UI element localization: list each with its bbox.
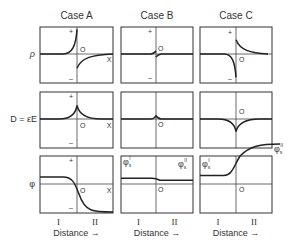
curve-rho-b-right bbox=[156, 54, 193, 57]
plus-mark: + bbox=[69, 28, 73, 35]
row-label-rho: ρ bbox=[29, 49, 35, 59]
curve-phi-c bbox=[200, 144, 280, 176]
plus-mark: + bbox=[148, 28, 152, 35]
curve-d-b bbox=[121, 116, 193, 119]
column-title-b: Case B bbox=[141, 10, 174, 21]
distance-axis-label: Distance → bbox=[213, 228, 260, 238]
plus-mark: + bbox=[228, 29, 232, 36]
x-label: X bbox=[107, 122, 112, 129]
x-label: X bbox=[107, 56, 112, 63]
region-two-label: II bbox=[172, 217, 178, 227]
panel-frame-a-phi bbox=[40, 156, 113, 213]
curve-rho-c-right bbox=[236, 40, 268, 54]
origin-label: O bbox=[80, 122, 86, 129]
origin-label: O bbox=[158, 186, 164, 193]
minus-mark: – bbox=[69, 204, 73, 211]
minus-mark: – bbox=[69, 75, 73, 82]
x-label: X bbox=[107, 187, 112, 194]
curve-rho-b-left bbox=[121, 51, 156, 54]
curve-rho-c-left bbox=[200, 54, 236, 77]
region-one-label: I bbox=[57, 217, 60, 227]
plus-mark: + bbox=[69, 93, 73, 100]
minus-mark: – bbox=[148, 74, 152, 81]
region-two-label: II bbox=[251, 217, 257, 227]
panel-frame-a-d bbox=[40, 92, 113, 148]
origin-label: O bbox=[80, 187, 86, 194]
origin-label: O bbox=[158, 121, 164, 128]
minus-mark: – bbox=[228, 75, 232, 82]
row-label-d: D = εE bbox=[10, 114, 37, 124]
curve-phi-b bbox=[121, 178, 193, 180]
region-two-label: II bbox=[92, 217, 98, 227]
column-title-a: Case A bbox=[60, 10, 93, 21]
double-layer-figure: Case ACase BCase CρD = εEφ+–OX+–OX+–OX+–… bbox=[0, 0, 288, 246]
origin-label: O bbox=[239, 186, 245, 193]
column-title-c: Case C bbox=[219, 10, 252, 21]
phi-s-two-label: φsII bbox=[274, 142, 283, 155]
minus-mark: – bbox=[69, 139, 73, 146]
phi-s-two-label: φsII bbox=[178, 157, 187, 170]
row-label-phi: φ bbox=[29, 179, 35, 189]
region-one-label: I bbox=[217, 217, 220, 227]
region-one-label: I bbox=[137, 217, 140, 227]
phi-s-one-label: φsI bbox=[123, 155, 132, 168]
distance-axis-label: Distance → bbox=[53, 228, 100, 238]
origin-label: O bbox=[239, 108, 245, 115]
panel-frame-b-d bbox=[121, 92, 193, 148]
curve-phi-a bbox=[40, 177, 113, 212]
phi-s-one-label: φsI bbox=[202, 157, 211, 170]
origin-label: O bbox=[158, 45, 164, 52]
curve-d-a bbox=[40, 105, 113, 119]
origin-label: O bbox=[239, 56, 245, 63]
origin-label: O bbox=[80, 46, 86, 53]
distance-axis-label: Distance → bbox=[134, 228, 181, 238]
plus-mark: + bbox=[69, 157, 73, 164]
